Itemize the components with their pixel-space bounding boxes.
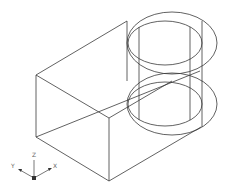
x-label: X <box>53 162 57 169</box>
x-arrow-icon <box>48 168 52 171</box>
wireframe-canvas: Z Y X <box>0 0 228 192</box>
drawing-viewport[interactable]: Z Y X <box>0 0 228 192</box>
x-axis <box>34 169 50 178</box>
ucs-icon: Z Y X <box>10 151 57 180</box>
origin-marker-icon <box>32 176 36 180</box>
block <box>36 21 201 181</box>
cylinder-outer <box>127 12 217 135</box>
y-label: Y <box>10 162 15 169</box>
z-label: Z <box>32 151 36 158</box>
y-axis <box>20 170 34 178</box>
y-arrow-icon <box>18 169 22 172</box>
